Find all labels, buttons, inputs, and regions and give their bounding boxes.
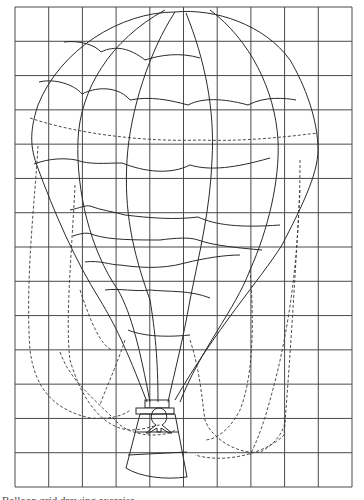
page-caption: Balloon grid drawing exercise [2, 493, 202, 500]
balloon-basket [126, 400, 187, 478]
balloon-envelope [32, 10, 318, 402]
reference-grid [15, 7, 352, 487]
dashed-guides [29, 118, 318, 458]
drawing-canvas [0, 0, 364, 500]
